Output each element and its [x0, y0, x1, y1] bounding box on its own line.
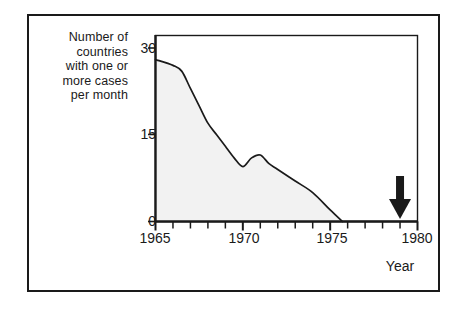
plot-canvas: [0, 0, 468, 315]
x-axis-ticks: [156, 222, 418, 231]
chart-figure: Number of countries with one or more cas…: [0, 0, 468, 315]
